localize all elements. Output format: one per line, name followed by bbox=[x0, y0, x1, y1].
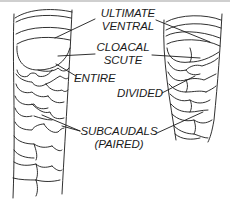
label-ultimate-ventral-line2: VENTRAL bbox=[93, 20, 163, 32]
label-entire: ENTIRE bbox=[74, 72, 116, 84]
label-subcaudals-line2: (PAIRED) bbox=[80, 138, 158, 150]
label-cloacal-scute-line2: SCUTE bbox=[93, 54, 153, 66]
label-subcaudals-line1: SUBCAUDALS bbox=[80, 125, 158, 137]
label-ultimate-ventral-line1: ULTIMATE bbox=[93, 7, 163, 19]
right-specimen-divided bbox=[164, 14, 222, 142]
leader-lines bbox=[42, 19, 210, 133]
label-divided: DIVIDED bbox=[117, 87, 163, 99]
left-specimen-entire bbox=[13, 10, 72, 198]
label-cloacal-scute-line1: CLOACAL bbox=[93, 41, 153, 53]
